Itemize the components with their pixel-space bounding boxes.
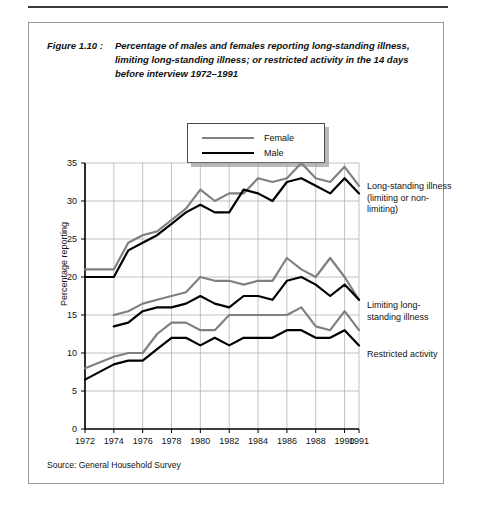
- line-chart: 0510152025303519721974197619781980198219…: [29, 23, 445, 485]
- svg-text:1988: 1988: [306, 436, 326, 446]
- svg-text:1974: 1974: [104, 436, 124, 446]
- svg-text:5: 5: [72, 386, 77, 396]
- svg-text:1978: 1978: [162, 436, 182, 446]
- svg-text:1982: 1982: [219, 436, 239, 446]
- svg-text:35: 35: [67, 158, 77, 168]
- y-axis-title: Percentage reporting: [59, 204, 69, 324]
- svg-text:1972: 1972: [75, 436, 95, 446]
- svg-text:1976: 1976: [133, 436, 153, 446]
- figure-panel: Figure 1.10 : Percentage of males and fe…: [28, 22, 444, 484]
- svg-text:0: 0: [72, 424, 77, 434]
- svg-text:1984: 1984: [248, 436, 268, 446]
- source-note: Source: General Household Survey: [47, 460, 181, 470]
- svg-text:1980: 1980: [190, 436, 210, 446]
- figure-page: Figure 1.10 : Percentage of males and fe…: [0, 0, 477, 527]
- plot-area: 0510152025303519721974197619781980198219…: [29, 23, 445, 485]
- svg-text:1991: 1991: [349, 436, 369, 446]
- top-divider: [28, 6, 448, 8]
- annotation-long-standing-illness: Long-standing illness (limiting or non-l…: [367, 181, 453, 216]
- svg-text:1986: 1986: [277, 436, 297, 446]
- annotation-restricted-activity: Restricted activity: [367, 349, 453, 361]
- svg-text:10: 10: [67, 348, 77, 358]
- annotation-limiting-long-standing-illness: Limiting long-standing illness: [367, 300, 453, 323]
